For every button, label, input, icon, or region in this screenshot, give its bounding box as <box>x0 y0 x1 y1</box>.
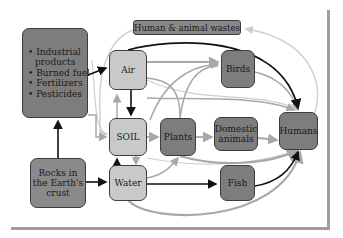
arrow-domestic-to-humans <box>258 138 277 140</box>
arrow-plants-to-humans <box>180 150 298 163</box>
node-domestic-animals: Domestic animals <box>214 117 258 151</box>
pollution-pathways-diagram: • Industrial products • Burned fuel • Fe… <box>0 0 343 238</box>
node-soil: SOIL <box>109 118 147 156</box>
source-item: • Burned fuel <box>28 68 90 79</box>
rocks-label-line: the Earth's <box>33 178 83 188</box>
node-rocks: Rocks in the Earth's crust <box>30 158 86 208</box>
rocks-label-line: Rocks in <box>39 168 78 178</box>
frame-right-border <box>327 10 330 230</box>
domestic-label-line: Domestic <box>215 124 258 134</box>
node-fish: Fish <box>220 165 255 201</box>
node-birds: Birds <box>221 50 255 88</box>
node-human-animal-wastes: Human & animal wastes <box>133 20 241 35</box>
frame-bottom-border <box>11 227 330 230</box>
arrow-air-to-humans-mid <box>147 98 294 110</box>
node-pollution-sources: • Industrial products • Burned fuel • Fe… <box>22 28 88 118</box>
source-item: • Industrial <box>28 47 81 58</box>
node-plants: Plants <box>160 118 196 156</box>
source-item: • Pesticides <box>28 89 82 100</box>
rocks-label-line: crust <box>46 188 69 198</box>
domestic-label-line: animals <box>218 134 253 144</box>
node-humans: Humans <box>279 112 318 150</box>
source-item: products <box>28 57 75 68</box>
arrow-air-to-plants <box>147 78 180 116</box>
node-water: Water <box>109 165 147 201</box>
source-item: • Fertilizers <box>28 78 83 89</box>
node-air: Air <box>109 50 147 90</box>
